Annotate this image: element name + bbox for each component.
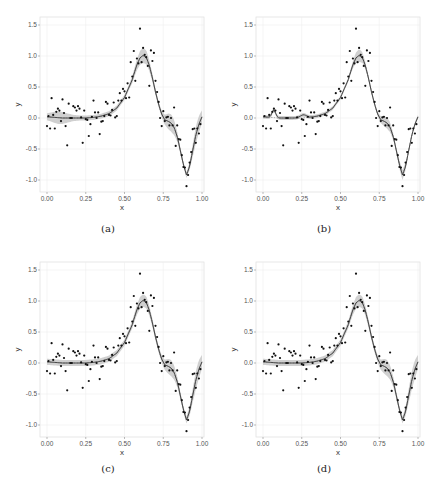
svg-text:0.5: 0.5 <box>28 328 37 335</box>
svg-text:0.25: 0.25 <box>79 440 92 447</box>
svg-text:0.25: 0.25 <box>79 195 92 202</box>
svg-text:-0.5: -0.5 <box>26 145 38 152</box>
scatter-plot: 1.51.00.50.0-0.5-1.00.000.250.500.751.00… <box>0 245 216 467</box>
svg-text:0.75: 0.75 <box>157 440 170 447</box>
svg-text:1.00: 1.00 <box>412 195 425 202</box>
panel-c: 1.51.00.50.0-0.5-1.00.000.250.500.751.00… <box>0 245 216 489</box>
scatter-plot: 1.51.00.50.0-0.5-1.00.000.250.500.751.00… <box>0 0 216 222</box>
caption-b: (b) <box>216 223 432 234</box>
svg-text:0.25: 0.25 <box>295 440 308 447</box>
svg-text:1.0: 1.0 <box>28 52 37 59</box>
svg-text:0.5: 0.5 <box>244 328 253 335</box>
svg-text:0.0: 0.0 <box>28 114 37 121</box>
svg-text:y: y <box>229 103 238 107</box>
panel-d: 1.51.00.50.0-0.5-1.00.000.250.500.751.00… <box>216 245 432 489</box>
caption-d: (d) <box>216 463 432 474</box>
svg-text:0.00: 0.00 <box>41 195 54 202</box>
scatter-plot: 1.51.00.50.0-0.5-1.00.000.250.500.751.00… <box>216 245 432 467</box>
svg-text:0.0: 0.0 <box>244 114 253 121</box>
svg-text:0.75: 0.75 <box>373 195 386 202</box>
svg-text:1.00: 1.00 <box>196 440 209 447</box>
caption-a: (a) <box>0 223 216 234</box>
svg-text:-1.0: -1.0 <box>242 421 254 428</box>
svg-text:0.00: 0.00 <box>257 440 270 447</box>
scatter-plot: 1.51.00.50.0-0.5-1.00.000.250.500.751.00… <box>216 0 432 222</box>
svg-text:1.00: 1.00 <box>196 195 209 202</box>
svg-text:0.50: 0.50 <box>334 195 347 202</box>
svg-text:-1.0: -1.0 <box>26 421 38 428</box>
svg-text:1.5: 1.5 <box>244 21 253 28</box>
svg-text:1.5: 1.5 <box>28 266 37 273</box>
svg-text:1.5: 1.5 <box>244 266 253 273</box>
svg-text:y: y <box>13 103 22 107</box>
svg-text:0.50: 0.50 <box>334 440 347 447</box>
svg-text:-0.5: -0.5 <box>26 390 38 397</box>
svg-text:1.0: 1.0 <box>244 297 253 304</box>
svg-text:0.75: 0.75 <box>157 195 170 202</box>
svg-text:0.50: 0.50 <box>118 195 131 202</box>
svg-text:x: x <box>120 203 124 212</box>
svg-text:y: y <box>229 348 238 352</box>
svg-text:0.0: 0.0 <box>244 359 253 366</box>
panel-b: 1.51.00.50.0-0.5-1.00.000.250.500.751.00… <box>216 0 432 244</box>
svg-text:-1.0: -1.0 <box>26 176 38 183</box>
figure-grid: 1.51.00.50.0-0.5-1.00.000.250.500.751.00… <box>0 0 432 489</box>
svg-text:0.25: 0.25 <box>295 195 308 202</box>
svg-text:0.0: 0.0 <box>28 359 37 366</box>
svg-text:0.00: 0.00 <box>41 440 54 447</box>
svg-text:0.00: 0.00 <box>257 195 270 202</box>
svg-text:1.5: 1.5 <box>28 21 37 28</box>
svg-text:-0.5: -0.5 <box>242 145 254 152</box>
svg-text:1.0: 1.0 <box>244 52 253 59</box>
svg-text:-1.0: -1.0 <box>242 176 254 183</box>
svg-text:x: x <box>336 203 340 212</box>
svg-text:1.0: 1.0 <box>28 297 37 304</box>
svg-text:-0.5: -0.5 <box>242 390 254 397</box>
svg-text:0.5: 0.5 <box>244 83 253 90</box>
panel-a: 1.51.00.50.0-0.5-1.00.000.250.500.751.00… <box>0 0 216 244</box>
svg-text:x: x <box>120 448 124 457</box>
svg-text:y: y <box>13 348 22 352</box>
svg-text:1.00: 1.00 <box>412 440 425 447</box>
svg-text:x: x <box>336 448 340 457</box>
svg-text:0.75: 0.75 <box>373 440 386 447</box>
svg-text:0.5: 0.5 <box>28 83 37 90</box>
svg-text:0.50: 0.50 <box>118 440 131 447</box>
caption-c: (c) <box>0 463 216 474</box>
